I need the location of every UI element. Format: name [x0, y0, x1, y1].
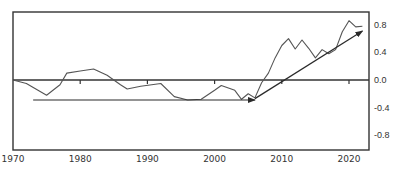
x-tick-label: 1990: [136, 154, 159, 164]
plot-frame: [13, 12, 369, 150]
y-tick-label: 0.8: [374, 20, 387, 30]
x-tick-label: 2020: [338, 154, 361, 164]
line-chart: 197019801990200020102020 0.80.40.0-0.4-0…: [0, 0, 399, 178]
y-tick-label: 0.0: [374, 75, 387, 85]
y-axis-labels: 0.80.40.0-0.4-0.8: [374, 20, 390, 140]
x-tick-label: 2010: [270, 154, 293, 164]
rising-trend-arrow: [255, 31, 363, 99]
data-series-line: [13, 21, 362, 100]
x-axis-labels: 197019801990200020102020: [2, 154, 361, 164]
x-tick-label: 1970: [2, 154, 25, 164]
x-tick-label: 1980: [69, 154, 92, 164]
y-tick-label: 0.4: [374, 47, 387, 57]
y-tick-label: -0.8: [374, 130, 390, 140]
x-tick-label: 2000: [203, 154, 226, 164]
y-tick-label: -0.4: [374, 103, 390, 113]
